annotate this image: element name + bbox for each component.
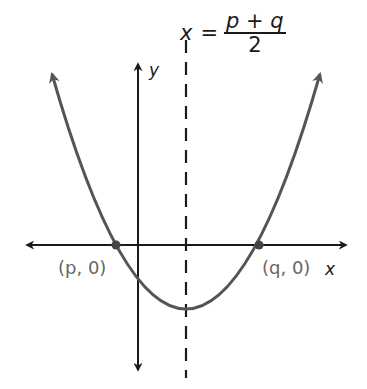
- equation-equals: =: [200, 21, 218, 45]
- root-point-q: [255, 241, 264, 250]
- parabola-diagram: [0, 0, 367, 389]
- equation-lhs: x: [180, 21, 192, 45]
- point-label-q: (q, 0): [262, 257, 310, 278]
- root-point-p: [112, 241, 121, 250]
- equation-fraction: p + q 2: [224, 10, 286, 56]
- axis-of-symmetry-equation: x = p + q 2: [180, 10, 286, 56]
- equation-denominator: 2: [248, 34, 261, 56]
- x-axis-label: x: [325, 259, 335, 279]
- point-label-p: (p, 0): [58, 257, 106, 278]
- equation-numerator: p + q: [224, 10, 286, 34]
- y-axis-label: y: [149, 60, 159, 80]
